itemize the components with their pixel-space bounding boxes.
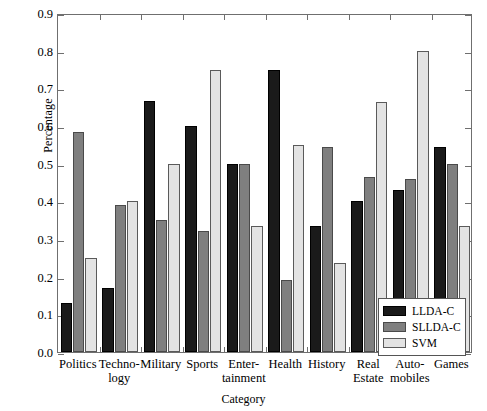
bar-sllda-c-5 — [281, 280, 292, 352]
x-tick-top — [183, 15, 184, 20]
bar-svm-3 — [210, 70, 221, 353]
x-tick-top — [307, 15, 308, 20]
y-tick-label: 0.6 — [13, 120, 53, 135]
bar-sllda-c-7 — [364, 177, 375, 352]
y-tick-label: 0.4 — [13, 195, 53, 210]
legend-swatch-icon — [383, 322, 406, 332]
y-tick-0.5 — [465, 166, 471, 167]
bar-svm-4 — [251, 226, 262, 352]
bar-svm-6 — [334, 263, 345, 352]
x-tick-top — [432, 15, 433, 20]
y-tick-0.7: 0.7 — [58, 90, 64, 91]
bar-sllda-c-4 — [239, 164, 250, 352]
y-tick-label: 0.1 — [13, 308, 53, 323]
plot-area: 0.00.10.20.30.40.50.60.70.80.9 LLDA-CSLL… — [57, 14, 472, 353]
y-tick-0.4: 0.4 — [58, 203, 64, 204]
bar-sllda-c-0 — [73, 132, 84, 352]
x-tick-bottom — [141, 347, 142, 352]
y-tick-0.3: 0.3 — [58, 241, 64, 242]
y-tick-label: 0.8 — [13, 45, 53, 60]
x-tick-bottom — [224, 347, 225, 352]
bar-sllda-c-6 — [322, 147, 333, 352]
y-tick-0.4 — [465, 203, 471, 204]
bar-svm-2 — [168, 164, 179, 352]
bar-llda-c-4 — [227, 164, 238, 352]
x-tick-top — [390, 15, 391, 20]
y-tick-0.2: 0.2 — [58, 279, 64, 280]
x-tick-top — [141, 15, 142, 20]
legend-label: SLLDA-C — [412, 321, 461, 333]
x-tick-top — [266, 15, 267, 20]
bar-sllda-c-2 — [156, 220, 167, 352]
chart-legend: LLDA-CSLLDA-CSVM — [378, 298, 466, 356]
bar-llda-c-2 — [144, 101, 155, 352]
y-tick-label: 0.7 — [13, 82, 53, 97]
x-tick-top — [100, 15, 101, 20]
bar-chart-figure: Percentage 0.00.10.20.30.40.50.60.70.80.… — [0, 0, 487, 411]
x-axis-title: Category — [0, 392, 487, 407]
legend-item-sllda-c[interactable]: SLLDA-C — [383, 319, 460, 335]
legend-item-svm[interactable]: SVM — [383, 335, 460, 351]
bar-llda-c-1 — [102, 288, 113, 352]
x-tick-label-9: Games — [425, 357, 479, 371]
bar-llda-c-7 — [351, 201, 362, 352]
y-tick-label: 0.5 — [13, 158, 53, 173]
y-tick-0.9 — [465, 15, 471, 16]
y-tick-0.8 — [465, 53, 471, 54]
y-tick-0.8: 0.8 — [58, 53, 64, 54]
bar-llda-c-0 — [61, 303, 72, 352]
legend-label: LLDA-C — [412, 305, 454, 317]
y-tick-label: 0.9 — [13, 7, 53, 22]
x-tick-top — [224, 15, 225, 20]
bar-svm-0 — [85, 258, 96, 352]
bar-llda-c-6 — [310, 226, 321, 352]
legend-item-llda-c[interactable]: LLDA-C — [383, 303, 460, 319]
y-tick-0.0: 0.0 — [58, 354, 64, 355]
x-tick-bottom — [100, 347, 101, 352]
y-tick-0.7 — [465, 90, 471, 91]
y-tick-label: 0.2 — [13, 271, 53, 286]
x-tick-bottom — [307, 347, 308, 352]
y-tick-0.9: 0.9 — [58, 15, 64, 16]
bar-svm-5 — [293, 145, 304, 352]
y-tick-0.6: 0.6 — [58, 128, 64, 129]
bar-sllda-c-3 — [198, 231, 209, 352]
y-tick-0.6 — [465, 128, 471, 129]
x-tick-bottom — [349, 347, 350, 352]
x-tick-bottom — [266, 347, 267, 352]
y-tick-0.5: 0.5 — [58, 166, 64, 167]
bar-llda-c-5 — [268, 70, 279, 353]
y-tick-label: 0.3 — [13, 233, 53, 248]
bar-sllda-c-1 — [115, 205, 126, 352]
legend-swatch-icon — [383, 338, 406, 348]
x-tick-top — [349, 15, 350, 20]
bar-llda-c-3 — [185, 126, 196, 352]
x-tick-bottom — [183, 347, 184, 352]
legend-label: SVM — [412, 337, 437, 349]
y-tick-label: 0.0 — [13, 346, 53, 361]
legend-swatch-icon — [383, 306, 406, 316]
bar-svm-1 — [127, 201, 138, 352]
